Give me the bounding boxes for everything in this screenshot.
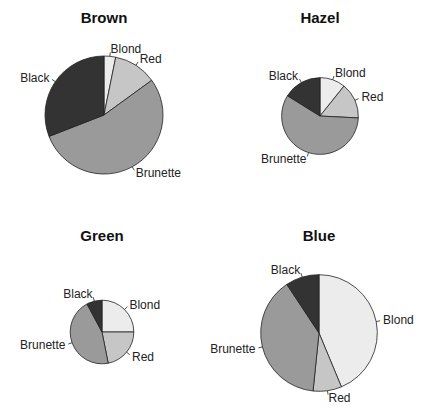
slice-label-blond: Blond [129,298,160,312]
label-tick [376,321,380,322]
label-tick [299,79,301,83]
label-tick [132,167,134,171]
label-tick [125,307,128,310]
label-tick [136,62,138,65]
slice-label-blond: Blond [111,42,142,56]
label-tick [307,153,308,157]
pie-hazel: HazelBlondRedBrunetteBlack [261,9,383,166]
slice-label-brunette: Brunette [210,342,256,356]
slice-label-brunette: Brunette [20,338,66,352]
slice-label-red: Red [329,391,351,405]
slice-label-brunette: Brunette [136,166,182,180]
pie-title: Hazel [300,9,339,26]
label-tick [52,79,55,81]
label-tick [301,273,302,277]
slice-label-black: Black [20,71,50,85]
pie-title: Blue [303,227,336,244]
label-tick [68,343,72,344]
label-tick [258,347,262,348]
slice-label-red: Red [140,52,162,66]
slice-label-blond: Blond [335,66,366,80]
pie-blue: BlueBlondRedBrunetteBlack [210,227,414,405]
label-tick [127,352,130,355]
pie-chart-grid: BrownBlondRedBrunetteBlackHazelBlondRedB… [0,0,429,409]
slice-label-black: Black [63,287,93,301]
slice-label-red: Red [361,90,383,104]
slice-label-red: Red [132,350,154,364]
slice-label-black: Black [271,263,301,277]
label-tick [355,99,359,101]
slice-label-black: Black [269,69,299,83]
pie-title: Brown [81,9,128,26]
slice-label-brunette: Brunette [261,152,307,166]
pie-green: GreenBlondRedBrunetteBlack [20,227,160,364]
pie-title: Green [80,227,123,244]
label-tick [93,297,94,301]
chart-canvas: BrownBlondRedBrunetteBlackHazelBlondRedB… [0,0,429,409]
slice-label-blond: Blond [383,313,414,327]
pie-brown: BrownBlondRedBrunetteBlack [20,9,181,180]
label-tick [333,76,334,80]
